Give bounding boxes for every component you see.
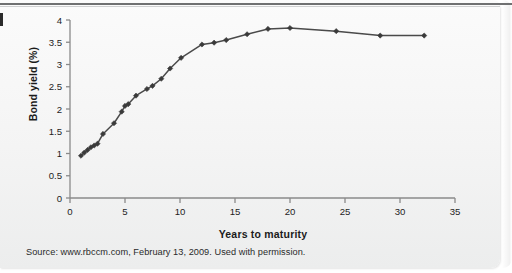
y-axis-tick-label: 2.5	[49, 81, 62, 92]
y-axis-tick-label: 3	[57, 59, 62, 70]
data-point-marker	[265, 26, 270, 31]
y-axis-tick-label: 0	[57, 193, 62, 204]
y-axis-title: Bond yield (%)	[27, 29, 39, 139]
data-point-marker	[287, 25, 292, 30]
data-point-marker	[224, 37, 229, 42]
x-axis-title: Years to maturity	[70, 228, 456, 240]
y-axis-tick-label: 1	[57, 148, 62, 159]
page-panel-shade	[502, 0, 512, 268]
data-point-marker	[378, 33, 383, 38]
x-axis-tick-label: 30	[395, 206, 406, 217]
y-axis-tick-label: 3.5	[49, 37, 62, 48]
y-axis-tick-label: 4	[57, 15, 63, 26]
x-axis-tick-label: 20	[285, 206, 296, 217]
y-axis-tick-label: 0.5	[49, 170, 62, 181]
x-axis-tick-label: 5	[122, 206, 127, 217]
data-point-marker	[212, 40, 217, 45]
x-axis-tick-label: 35	[450, 206, 461, 217]
chart-area: 00.511.522.533.5405101520253035 Bond yie…	[0, 0, 500, 232]
y-axis-tick-label: 1.5	[49, 126, 62, 137]
y-axis-tick-label: 2	[57, 104, 62, 115]
data-point-marker	[245, 32, 250, 37]
x-axis-tick-label: 10	[175, 206, 186, 217]
figure-root: 00.511.522.533.5405101520253035 Bond yie…	[0, 0, 512, 273]
data-point-marker	[422, 33, 427, 38]
series-line	[81, 28, 424, 156]
x-axis-tick-label: 15	[230, 206, 241, 217]
x-axis-tick-label: 0	[67, 206, 72, 217]
data-point-marker	[334, 29, 339, 34]
yield-curve-chart: 00.511.522.533.5405101520253035	[0, 0, 500, 232]
source-note: Source: www.rbccm.com, February 13, 2009…	[26, 247, 305, 257]
x-axis-tick-label: 25	[340, 206, 351, 217]
